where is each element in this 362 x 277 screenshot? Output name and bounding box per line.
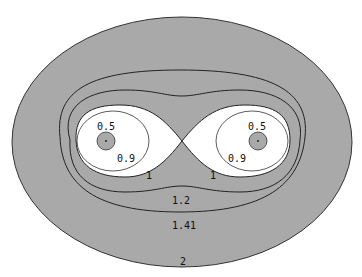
focus-point-left: [105, 140, 107, 142]
label-1-right: 1: [210, 170, 216, 181]
label-0-9-right: 0.9: [228, 153, 246, 164]
label-2: 2: [180, 256, 186, 267]
label-0-5-right: 0.5: [248, 121, 266, 132]
label-1-left: 1: [146, 170, 152, 181]
focus-point-right: [257, 140, 259, 142]
contour-diagram: 0.5 0.5 0.9 0.9 1 1 1.2 1.41 2: [0, 0, 362, 277]
label-0-9-left: 0.9: [117, 153, 135, 164]
label-1-41: 1.41: [172, 220, 196, 231]
label-0-5-left: 0.5: [97, 121, 115, 132]
label-1-2: 1.2: [172, 195, 190, 206]
